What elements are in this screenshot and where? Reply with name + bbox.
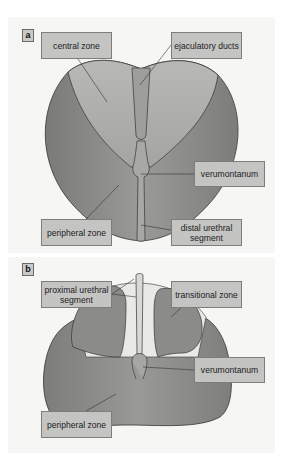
panel-a: a central zone ejaculatory ducts verumon… — [8, 17, 275, 253]
label-peripheral-zone: peripheral zone — [41, 411, 112, 438]
label-transitional-zone: transitional zone — [171, 281, 242, 308]
label-ejaculatory-ducts: ejaculatory ducts — [171, 32, 242, 59]
panel-tag-b: b — [22, 263, 34, 276]
label-verumontanum: verumontanum — [194, 357, 265, 383]
urethra-shape — [136, 274, 143, 356]
panel-b: b proximal urethral segment transitional… — [8, 257, 275, 453]
label-verumontanum: verumontanum — [194, 161, 265, 187]
label-proximal-urethral-segment: proximal urethral segment — [41, 281, 112, 308]
label-peripheral-zone: peripheral zone — [41, 219, 112, 246]
label-central-zone: central zone — [41, 32, 112, 59]
panel-tag-a: a — [22, 29, 34, 42]
label-distal-urethral-segment: distal urethral segment — [171, 219, 242, 246]
